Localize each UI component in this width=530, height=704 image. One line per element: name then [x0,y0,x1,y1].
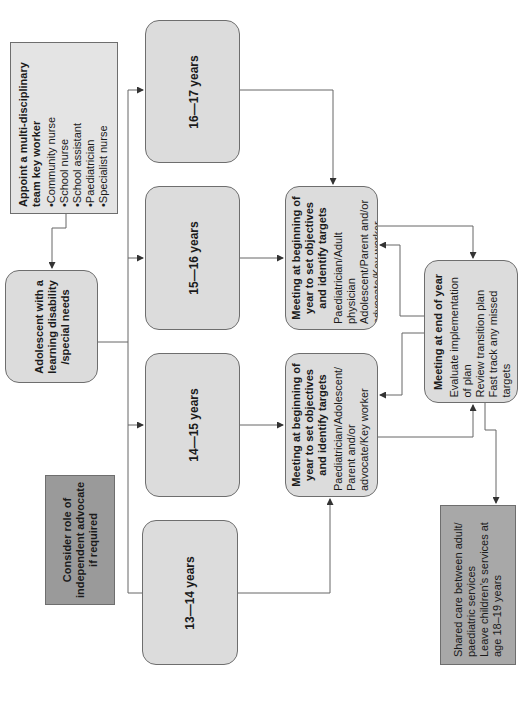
meeting-upper-body: Paediatrician/Adult physician Adolescent… [331,192,378,324]
list-item: School assistant [71,49,84,207]
key-worker-title: Appoint a multi-disciplinary team key wo… [17,49,43,207]
meeting-upper-box: Meeting at beginning of year to set obje… [285,186,378,330]
shared-care-box: Shared care between adult/ paediatric se… [440,505,516,665]
list-item: Community nurse [45,49,58,207]
age-box-13-14: 13—14 years [142,520,238,665]
meeting-end-line: Evaluate implementation of plan [448,266,474,397]
shared-care-line: Shared care between adult/ paediatric se… [452,513,478,657]
list-item: Paediatrician [84,49,97,207]
age-label: 16—17 years [186,55,200,128]
meeting-end-line: Fast track any missed targets [487,266,513,397]
age-label: 13—14 years [183,556,197,629]
age-box-15-16: 15—16 years [145,186,240,330]
advocate-box: Consider role of independent advocate if… [45,475,115,605]
age-box-14-15: 14—15 years [145,353,240,497]
advocate-label: Consider role of independent advocate if… [61,479,100,601]
meeting-upper-title: Meeting at beginning of year to set obje… [289,192,328,324]
age-label: 15—16 years [186,221,200,294]
shared-care-line: Leave children’s services at age 18–19 y… [478,513,504,657]
meeting-end-title: Meeting at end of year [432,266,445,397]
key-worker-list: Community nurse School nurse School assi… [45,49,110,207]
age-label: 14—15 years [186,388,200,461]
list-item: Specialist nurse [97,49,110,207]
meeting-lower-title: Meeting at beginning of year to set obje… [289,359,328,491]
meeting-end-line: Review transition plan [474,266,487,397]
meeting-end-box: Meeting at end of year Evaluate implemen… [424,260,518,403]
adolescent-label: Adolescent with a learning disability /s… [32,274,71,379]
meeting-lower-body: Paediatrician/Adolescent/ Parent and/or … [331,359,370,491]
meeting-lower-box: Meeting at beginning of year to set obje… [285,353,378,497]
key-worker-box: Appoint a multi-disciplinary team key wo… [10,42,118,214]
adolescent-box: Adolescent with a learning disability /s… [5,270,98,383]
age-box-16-17: 16—17 years [145,20,240,163]
list-item: School nurse [58,49,71,207]
